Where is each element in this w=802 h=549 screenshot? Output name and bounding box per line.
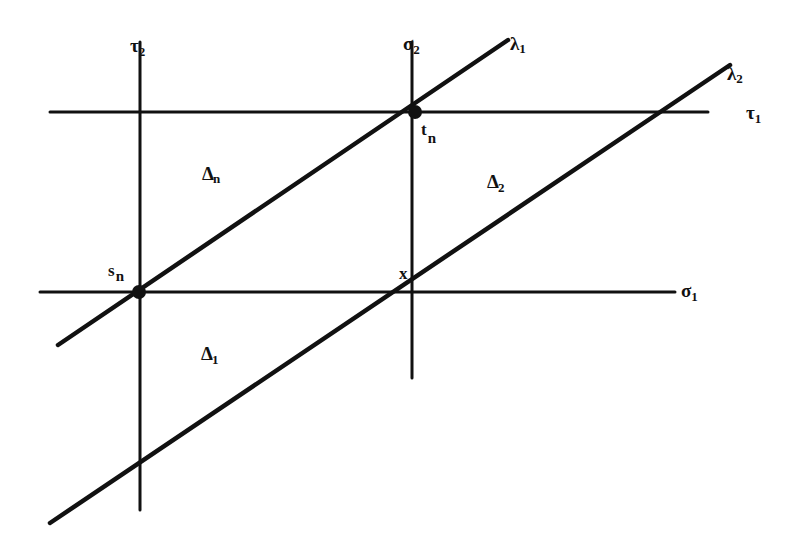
- label-sigma2: σ2: [403, 33, 420, 57]
- label-sigma1: σ1: [681, 280, 698, 304]
- label-t-n: tn: [421, 120, 437, 146]
- label-delta-1: Δ1: [201, 343, 218, 367]
- line-lambda2: [50, 65, 730, 523]
- label-lambda2: λ2: [727, 63, 743, 86]
- line-lambda1: [58, 40, 508, 345]
- label-tau1: τ1: [746, 102, 761, 126]
- label-tau2: τ2: [130, 35, 145, 59]
- point-s-n: [132, 285, 146, 299]
- label-x: x: [399, 264, 408, 283]
- label-delta-n: Δn: [202, 163, 221, 186]
- label-s-n: sn: [108, 261, 125, 284]
- point-t-n: [408, 105, 422, 119]
- label-lambda1: λ1: [510, 33, 526, 56]
- diagram-canvas: τ2 σ2 λ1 λ2 τ1 σ1 tn sn x Δn Δ2 Δ1: [0, 0, 802, 549]
- label-delta-2: Δ2: [487, 171, 504, 195]
